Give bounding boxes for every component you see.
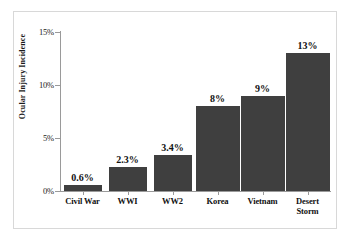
x-tick-mark [263,192,264,195]
x-tick-label-line: Storm [285,206,330,216]
x-tick-label-line: WWI [105,196,150,206]
y-tick-label-wrap: 10% [10,80,54,90]
x-tick-mark [128,192,129,195]
bar-group[interactable]: 0.6% [64,32,102,191]
bar-rect[interactable] [109,167,147,191]
bar-value-label: 2.3% [97,154,159,165]
x-tick-label-line: Desert [285,196,330,206]
bar-group[interactable]: 13% [286,32,330,191]
bar-group[interactable]: 3.4% [154,32,192,191]
y-tick-label-wrap: 0% [10,186,54,196]
x-tick-label: Civil War [60,196,105,206]
chart-page: Ocular Injury Incidence 0%5%10%15% 0.6%2… [0,0,352,239]
x-tick-label-line: Korea [195,196,240,206]
x-tick-label-line: WW2 [150,196,195,206]
bar-value-label: 13% [274,40,342,51]
x-tick-label-line: Vietnam [240,196,285,206]
x-tick-mark [173,192,174,195]
bar-group[interactable]: 8% [196,32,240,191]
x-tick-mark [83,192,84,195]
y-tick-mark [55,191,60,192]
bar-value-label: 3.4% [142,142,204,153]
bar-rect[interactable] [241,96,285,191]
x-tick-label: DesertStorm [285,196,330,216]
x-tick-label: Vietnam [240,196,285,206]
y-tick-label-wrap: 15% [10,27,54,37]
x-tick-mark [308,192,309,195]
x-tick-mark [218,192,219,195]
bar-rect[interactable] [154,155,192,191]
bar-group[interactable]: 9% [241,32,285,191]
y-tick-label-wrap: 5% [10,133,54,143]
plot-area: 0.6%2.3%3.4%8%9%13% [60,32,330,191]
y-tick-label: 5% [14,133,54,143]
bar-group[interactable]: 2.3% [109,32,147,191]
x-tick-label: Korea [195,196,240,206]
x-tick-label: WWI [105,196,150,206]
y-tick-label: 0% [14,186,54,196]
bar-rect[interactable] [286,53,330,191]
bar-rect[interactable] [196,106,240,191]
x-tick-label-line: Civil War [60,196,105,206]
bar-rect[interactable] [64,185,102,191]
x-axis-line [60,191,331,192]
bar-value-label: 0.6% [52,172,114,183]
y-tick-label: 10% [14,80,54,90]
y-tick-label: 15% [14,27,54,37]
x-tick-label: WW2 [150,196,195,206]
